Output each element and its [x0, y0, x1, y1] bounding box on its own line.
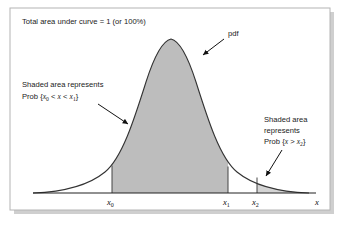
right-prob-op: > — [288, 137, 297, 146]
axis-name-label: x — [314, 197, 319, 207]
left-prob-op2: < — [61, 92, 70, 101]
total-area-note: Total area under curve = 1 (or 100%) — [22, 17, 146, 26]
right-annotation-line3: Prob {x > x2} — [264, 137, 306, 147]
probability-density-diagram: Total area under curve = 1 (or 100%) pdf… — [0, 0, 342, 226]
right-prob-prefix: Prob { — [264, 137, 285, 146]
right-annotation-line1: Shaded area — [264, 115, 308, 124]
left-annotation-line2: Prob {x0 < x < x1} — [22, 92, 79, 102]
axis-tick-x2-sub: 2 — [256, 202, 259, 208]
axis-tick-x0-sub: 0 — [111, 202, 114, 208]
figure-container: Total area under curve = 1 (or 100%) pdf… — [0, 0, 342, 226]
left-prob-op1: < — [49, 92, 58, 101]
left-prob-prefix: Prob { — [22, 92, 43, 101]
pdf-label: pdf — [228, 29, 239, 38]
right-annotation-line2: represents — [264, 126, 300, 135]
left-annotation-line1: Shaded area represents — [22, 80, 104, 89]
axis-tick-x1-sub: 1 — [227, 202, 230, 208]
